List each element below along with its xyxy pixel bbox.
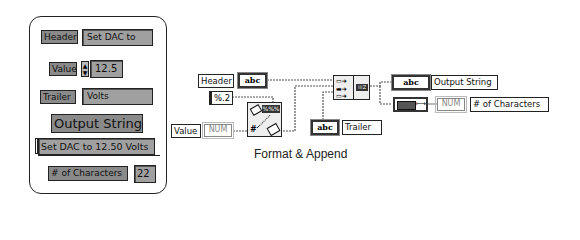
concatenate-strings-node[interactable]: ▭➜▬➜▭➜ ⁞⁞⁞Z [333,75,370,100]
string-out-icon [266,123,280,136]
concat-inputs-icon: ▭➜▬➜▭➜ [336,77,347,100]
string-icon [397,101,416,110]
string-length-node[interactable]: ⟼ [393,97,428,112]
header-string-terminal[interactable]: abc [238,73,267,88]
diagram-caption: Format & Append [254,147,347,161]
value-terminal-label: Value [171,124,201,138]
length-numeric-terminal[interactable]: NUM [437,98,465,111]
format-and-append-node[interactable]: %%% # [247,102,282,137]
length-arrow-icon: ⟼ [416,99,426,110]
output-string-terminal[interactable]: abc [392,75,430,90]
concat-output-icon: ⁞⁞⁞Z [356,84,368,91]
trailer-terminal-label: Trailer [342,120,382,135]
format-string-constant[interactable]: %.2 [209,91,233,105]
num-characters-terminal-label: # of Characters [470,97,549,112]
trailer-string-terminal[interactable]: abc [311,120,339,135]
value-numeric-terminal[interactable]: NUM [204,124,232,137]
concat-divider [353,76,354,99]
number-icon: # [250,125,257,134]
header-terminal-label: Header [198,74,234,88]
format-string-icon: %%% [262,105,280,113]
string-in-icon [250,104,263,116]
output-string-terminal-label: Output String [431,75,498,90]
